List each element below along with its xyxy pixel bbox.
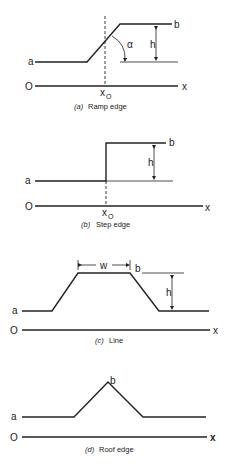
edge-models-diagram: a b h α O x x O (a) Ramp edge a b h O x … bbox=[0, 0, 231, 469]
caption-letter: (d) bbox=[85, 445, 95, 454]
label-x0: x bbox=[102, 207, 107, 218]
label-axis-x: x bbox=[182, 81, 187, 92]
label-x0: x bbox=[100, 87, 105, 98]
panel-line: a b w h O x (c) Line bbox=[10, 260, 218, 345]
caption-text: Roof edge bbox=[99, 445, 134, 454]
label-h: h bbox=[150, 39, 156, 50]
roof-profile bbox=[22, 382, 206, 417]
label-alpha: α bbox=[127, 39, 133, 50]
caption-letter: (a) bbox=[74, 102, 84, 111]
line-profile bbox=[22, 273, 209, 311]
label-h: h bbox=[148, 157, 154, 168]
label-a: a bbox=[12, 305, 18, 316]
caption-text: Line bbox=[109, 336, 123, 345]
angle-arc bbox=[112, 36, 125, 60]
caption-letter: (c) bbox=[95, 336, 104, 345]
label-origin: O bbox=[10, 432, 18, 443]
step-profile bbox=[35, 143, 166, 181]
caption-letter: (b) bbox=[81, 220, 91, 229]
label-origin: O bbox=[10, 325, 18, 336]
label-a: a bbox=[11, 411, 17, 422]
label-a: a bbox=[28, 56, 34, 67]
label-axis-x: x bbox=[213, 325, 218, 336]
panel-roof-edge: a b O x (d) Roof edge bbox=[10, 375, 216, 454]
label-origin: O bbox=[25, 201, 33, 212]
label-origin: O bbox=[25, 81, 33, 92]
caption-text: Step edge bbox=[96, 220, 130, 229]
label-axis-x: x bbox=[205, 202, 210, 213]
label-x0-sub: O bbox=[108, 213, 114, 220]
label-axis-x: x bbox=[210, 432, 216, 443]
label-b: b bbox=[169, 137, 175, 148]
label-b: b bbox=[135, 263, 141, 274]
label-b: b bbox=[174, 19, 180, 30]
panel-ramp-edge: a b h α O x x O (a) Ramp edge bbox=[25, 16, 187, 111]
label-b: b bbox=[110, 375, 116, 386]
label-h: h bbox=[166, 287, 172, 298]
panel-step-edge: a b h O x x O (b) Step edge bbox=[25, 137, 210, 229]
label-a: a bbox=[25, 175, 31, 186]
caption-text: Ramp edge bbox=[88, 102, 127, 111]
label-w: w bbox=[99, 260, 108, 271]
label-x0-sub: O bbox=[106, 93, 112, 100]
